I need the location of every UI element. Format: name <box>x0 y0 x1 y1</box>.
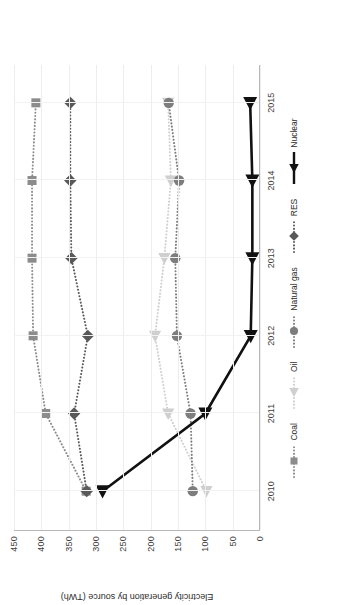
data-point <box>158 253 170 265</box>
data-point <box>28 176 37 185</box>
y-gridline <box>41 65 42 530</box>
legend-label: Natural gas <box>289 267 299 310</box>
plot-area: 0501001502002503003504004502010201120122… <box>14 65 260 531</box>
x-gridline <box>14 413 259 414</box>
y-axis-tick-label: 150 <box>173 536 183 552</box>
data-point <box>174 175 184 185</box>
data-point <box>245 175 259 188</box>
y-gridline <box>178 65 179 530</box>
legend-item-coal[interactable]: Coal <box>288 423 300 477</box>
legend-label: Coal <box>289 423 299 440</box>
x-axis-tick-label: 2014 <box>266 170 276 190</box>
chart-figure: Electricity generation by source (TWh) 0… <box>0 0 343 605</box>
x-gridline <box>14 490 259 491</box>
y-axis-tick-label: 200 <box>146 536 156 552</box>
series-natural-gas <box>164 98 198 497</box>
y-axis-tick-label: 250 <box>118 536 128 552</box>
chart-legend: CoalOilNatural gasRESNuclear <box>288 65 300 531</box>
legend-marker-triangle-left-icon <box>288 375 300 409</box>
y-gridline <box>205 65 206 530</box>
y-axis-tick-label: 400 <box>36 536 46 552</box>
data-point <box>64 174 76 186</box>
y-axis-tick-label: 100 <box>200 536 210 552</box>
y-gridline <box>151 65 152 530</box>
y-gridline <box>14 65 15 530</box>
x-gridline <box>14 257 259 258</box>
data-point <box>244 330 258 343</box>
legend-marker-diamond-icon <box>288 219 300 253</box>
y-axis-tick-label: 300 <box>91 536 101 552</box>
legend-label: Oil <box>289 362 299 372</box>
series-oil <box>149 98 213 498</box>
legend-label: RES <box>289 199 299 216</box>
x-axis-tick-label: 2012 <box>266 326 276 346</box>
rotated-chart-wrapper: Electricity generation by source (TWh) 0… <box>0 0 343 605</box>
y-axis-tick-label: 50 <box>228 536 238 546</box>
y-gridline <box>260 65 261 530</box>
x-gridline <box>14 335 259 336</box>
series-coal <box>28 98 91 495</box>
x-axis-tick-label: 2011 <box>266 404 276 423</box>
y-gridline <box>96 65 97 530</box>
legend-label: Nuclear <box>289 118 299 147</box>
data-point <box>243 97 257 110</box>
legend-item-res[interactable]: RES <box>288 199 300 253</box>
y-axis-tick-label: 450 <box>9 536 19 552</box>
legend-item-natural-gas[interactable]: Natural gas <box>288 267 300 347</box>
x-axis-tick-label: 2013 <box>266 248 276 268</box>
x-axis-tick-label: 2015 <box>266 93 276 113</box>
data-point <box>200 486 212 498</box>
data-point <box>162 408 174 420</box>
legend-marker-square-icon <box>288 444 300 478</box>
y-axis-tick-label: 0 <box>255 536 265 541</box>
legend-item-nuclear[interactable]: Nuclear <box>288 118 300 184</box>
data-point <box>68 407 80 419</box>
y-axis-title: Electricity generation by source (TWh) <box>61 592 214 602</box>
data-point <box>41 409 50 418</box>
data-point <box>96 485 110 498</box>
legend-item-oil[interactable]: Oil <box>288 362 300 409</box>
x-gridline <box>14 180 259 181</box>
y-axis-tick-label: 350 <box>64 536 74 552</box>
legend-marker-triangle-left-icon <box>288 151 300 185</box>
y-gridline <box>233 65 234 530</box>
x-axis-tick-label: 2010 <box>266 481 276 501</box>
series-layer <box>14 64 260 530</box>
y-gridline <box>123 65 124 530</box>
x-gridline <box>14 102 259 103</box>
data-point <box>245 252 259 265</box>
y-gridline <box>69 65 70 530</box>
legend-marker-circle-icon <box>288 314 300 348</box>
data-point <box>185 408 195 418</box>
series-line <box>70 103 87 491</box>
